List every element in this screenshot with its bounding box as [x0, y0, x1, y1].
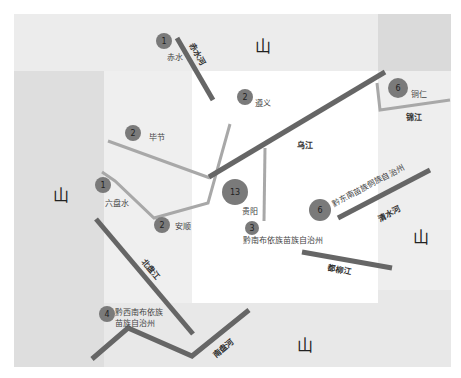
city-count: 13 [230, 188, 240, 197]
city-name: 安顺 [175, 221, 191, 231]
river-label-jinjiang: 锦江 [406, 112, 422, 122]
city-count: 6 [395, 84, 400, 93]
city-name: 赤水 [167, 52, 183, 62]
city-name: 六盘水 [105, 198, 129, 208]
city-name: 黔南布依族苗族自治州 [243, 235, 323, 245]
city-name: 铜仁 [411, 89, 427, 99]
city-name-line2: 苗族自治州 [115, 318, 155, 328]
city-count: 1 [161, 37, 166, 46]
mountain-label-east: 山 [413, 228, 429, 247]
city-count: 2 [130, 129, 135, 138]
city-name: 遵义 [255, 98, 271, 108]
south-east-notch [378, 290, 451, 303]
city-count: 1 [100, 181, 105, 190]
city-count: 3 [249, 224, 254, 233]
city-count: 4 [104, 310, 109, 319]
guiyang-tributary [264, 148, 265, 221]
river-label-wujiang: 乌江 [297, 140, 313, 150]
northeast-corner [378, 14, 451, 71]
guizhou-distribution-map: 山 山 山 山 1 赤水 2 遵义 6 铜仁 2 毕节 1 六盘水 2 安顺 1… [0, 0, 461, 378]
mountain-label-west: 山 [53, 186, 69, 205]
mountain-label-south: 山 [297, 336, 313, 355]
city-count: 2 [159, 221, 164, 230]
city-name: 贵阳 [242, 206, 258, 216]
city-name: 毕节 [149, 132, 165, 142]
city-name-line1: 黔西南布依族 [115, 307, 163, 317]
southwest-corner [14, 303, 104, 367]
city-count: 2 [242, 93, 247, 102]
mountain-label-north: 山 [255, 37, 271, 56]
city-count: 6 [317, 206, 322, 215]
